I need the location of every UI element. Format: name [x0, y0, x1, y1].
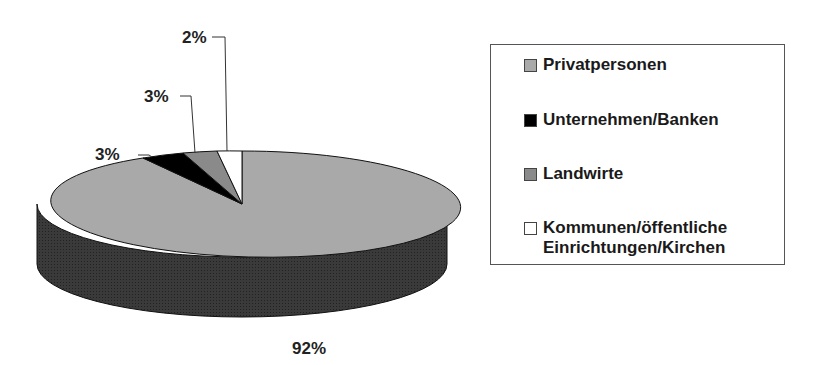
legend-item-privatpersonen: Privatpersonen	[524, 55, 667, 75]
legend-label-line1: Kommunen/öffentliche	[543, 218, 727, 238]
label-privatpersonen: 92%	[292, 340, 326, 357]
legend-swatch-icon	[524, 168, 537, 181]
leader-line-kommunen	[212, 37, 227, 151]
legend: Privatpersonen Unternehmen/Banken Landwi…	[490, 44, 785, 265]
legend-label: Unternehmen/Banken	[543, 110, 719, 130]
legend-label-line2: Einrichtungen/Kirchen	[543, 238, 727, 258]
legend-label: Landwirte	[543, 164, 623, 184]
legend-item-kommunen: Kommunen/öffentliche Einrichtungen/Kirch…	[524, 218, 727, 258]
legend-swatch-icon	[524, 59, 537, 72]
legend-label: Privatpersonen	[543, 55, 667, 75]
legend-swatch-icon	[524, 114, 537, 127]
label-kommunen: 2%	[182, 29, 207, 46]
legend-swatch-icon	[524, 222, 537, 235]
slice-privatpersonen	[51, 151, 461, 257]
label-landwirte: 3%	[144, 88, 169, 105]
label-unternehmen: 3%	[95, 146, 120, 163]
legend-item-unternehmen-banken: Unternehmen/Banken	[524, 110, 719, 130]
legend-item-landwirte: Landwirte	[524, 164, 623, 184]
leader-line-landwirte	[180, 96, 195, 153]
